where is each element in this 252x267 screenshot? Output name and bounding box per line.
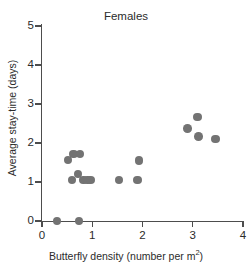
x-tick-mark <box>142 221 143 227</box>
y-tick-mark <box>35 181 41 182</box>
y-tick-mark <box>35 103 41 104</box>
data-point <box>211 135 220 144</box>
y-axis-line <box>41 24 42 222</box>
data-point <box>115 176 124 185</box>
x-axis-label: Butterfly density (number per m2) <box>0 248 252 262</box>
y-tick-mark <box>35 25 41 26</box>
y-tick-mark <box>35 142 41 143</box>
scatter-plot-figure: Females 01234501234 Average stay-time (d… <box>0 0 252 267</box>
y-tick-mark <box>35 220 41 221</box>
data-point <box>76 150 85 159</box>
x-tick-mark <box>242 221 243 227</box>
x-tick-mark <box>92 221 93 227</box>
data-point <box>75 217 84 226</box>
data-point <box>53 217 62 226</box>
x-tick-mark <box>41 221 42 227</box>
data-point <box>193 113 202 122</box>
x-tick-mark <box>192 221 193 227</box>
x-axis-label-tail: ) <box>200 250 204 262</box>
x-tick-label: 0 <box>30 230 54 242</box>
data-point <box>194 132 203 141</box>
x-tick-label: 2 <box>131 230 155 242</box>
x-axis-label-main: Butterfly density (number per m <box>49 250 195 262</box>
x-tick-label: 3 <box>181 230 205 242</box>
chart-title: Females <box>0 10 252 22</box>
x-tick-label: 1 <box>80 230 104 242</box>
x-tick-label: 4 <box>231 230 252 242</box>
data-point <box>135 156 144 165</box>
y-axis-label: Average stay-time (days) <box>6 18 18 218</box>
data-point <box>86 176 95 185</box>
data-point <box>183 124 192 133</box>
data-point <box>133 176 142 185</box>
y-tick-mark <box>35 64 41 65</box>
